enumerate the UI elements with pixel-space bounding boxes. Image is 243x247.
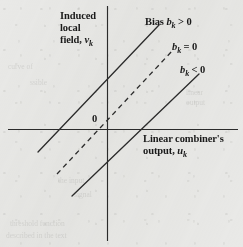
x-axis-label-line2: output, <box>143 145 175 156</box>
x-axis-label-subscript: k <box>183 149 187 158</box>
line-bias-positive <box>38 25 159 152</box>
label-bias-negative-relation: < 0 <box>189 64 205 75</box>
y-axis-label: Induced local field, vk <box>60 10 96 48</box>
y-axis-label-subscript: k <box>89 38 93 47</box>
y-axis-label-line1: Induced <box>60 10 96 21</box>
label-bias-positive: Bias bk > 0 <box>145 16 192 30</box>
label-bias-positive-relation: > 0 <box>175 16 191 27</box>
origin-label: 0 <box>92 113 97 125</box>
label-bias-zero: bk = 0 <box>172 41 197 55</box>
x-axis-label-line1: Linear combiner's <box>143 133 224 144</box>
figure-container: curve of ssible linear output the input … <box>0 0 243 247</box>
x-axis-label: Linear combiner's output, uk <box>143 133 224 159</box>
label-bias-positive-prefix: Bias <box>145 16 166 27</box>
plot-area <box>0 0 243 247</box>
y-axis-label-line3: field, <box>60 34 82 45</box>
y-axis-label-line2: local <box>60 22 81 33</box>
label-bias-negative: bk < 0 <box>180 64 205 78</box>
label-bias-zero-relation: = 0 <box>181 41 197 52</box>
